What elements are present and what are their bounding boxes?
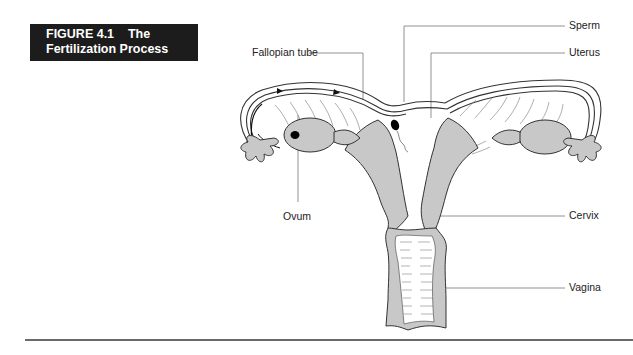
- label-uterus: Uterus: [569, 46, 600, 58]
- bottom-divider: [25, 339, 633, 341]
- label-sperm: Sperm: [569, 19, 600, 31]
- label-fallopian-tube: Fallopian tube: [252, 46, 318, 58]
- label-cervix: Cervix: [569, 209, 599, 221]
- label-ovum: Ovum: [283, 210, 311, 222]
- label-vagina: Vagina: [569, 281, 601, 293]
- sperm-cell: [389, 118, 400, 131]
- ovum-cell: [291, 131, 300, 139]
